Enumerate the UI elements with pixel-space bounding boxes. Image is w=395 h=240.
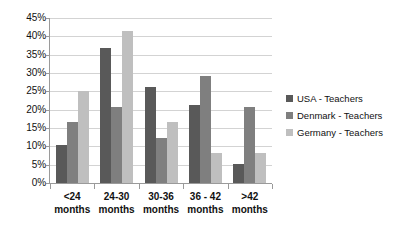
bar-usa: [100, 48, 111, 183]
x-axis-tick-mark: [183, 184, 184, 189]
y-axis-tick-label: 20%: [0, 105, 46, 115]
legend-item[interactable]: USA - Teachers: [286, 90, 383, 107]
legend-item-label: Germany - Teachers: [297, 127, 383, 138]
x-axis-tick-label-line1: 24-30: [104, 191, 130, 202]
x-axis-tick-mark: [94, 184, 95, 189]
y-axis-tick-label: 30%: [0, 68, 46, 78]
x-axis-tick-label: 30-36months: [139, 190, 183, 216]
x-axis-tick-label-line2: months: [94, 203, 138, 216]
x-axis-tick-mark: [228, 184, 229, 189]
y-axis-tick-mark: [46, 146, 50, 147]
bar-chart-figure: 0%5%10%15%20%25%30%35%40%45% <24months24…: [0, 0, 395, 240]
y-axis-tick-label: 15%: [0, 123, 46, 133]
bar-denmark: [244, 107, 255, 183]
x-axis-tick-mark: [50, 184, 51, 189]
y-axis-tick-mark: [46, 36, 50, 37]
plot-area: [50, 18, 272, 183]
x-axis: <24months24-30months30-36months36 - 42mo…: [50, 190, 272, 216]
y-axis-tick-mark: [46, 183, 50, 184]
x-axis-tick-label-line2: months: [50, 203, 94, 216]
bar-group: [228, 18, 272, 183]
y-axis-tick-label: 10%: [0, 141, 46, 151]
x-axis-tick-label-line1: >42: [241, 191, 258, 202]
bar-usa: [145, 87, 156, 183]
bar-denmark: [200, 76, 211, 183]
y-axis: 0%5%10%15%20%25%30%35%40%45%: [0, 0, 46, 240]
bar-groups: [50, 18, 272, 183]
y-axis-tick-label: 5%: [0, 160, 46, 170]
bar-group: [50, 18, 94, 183]
y-axis-tick-mark: [46, 91, 50, 92]
x-axis-tick-label-line1: 36 - 42: [190, 191, 221, 202]
x-axis-tick-label: <24months: [50, 190, 94, 216]
x-axis-tick-marks: [50, 184, 272, 189]
legend-swatch-usa: [286, 95, 293, 102]
x-axis-tick-mark: [139, 184, 140, 189]
y-axis-tick-mark: [46, 73, 50, 74]
x-axis-tick-label: 36 - 42months: [183, 190, 227, 216]
bar-group: [139, 18, 183, 183]
y-axis-tick-label: 0%: [0, 178, 46, 188]
x-axis-tick-label-line2: months: [139, 203, 183, 216]
bar-denmark: [111, 107, 122, 183]
x-axis-tick-label-line1: <24: [64, 191, 81, 202]
legend-item-label: Denmark - Teachers: [297, 110, 382, 121]
bar-denmark: [67, 122, 78, 183]
y-axis-line: [49, 18, 50, 184]
bar-germany: [211, 153, 222, 183]
legend-item[interactable]: Denmark - Teachers: [286, 107, 383, 124]
x-axis-tick-label: >42months: [228, 190, 272, 216]
bar-germany: [255, 153, 266, 183]
y-axis-tick-mark: [46, 55, 50, 56]
y-axis-tick-mark: [46, 110, 50, 111]
y-axis-tick-mark: [46, 18, 50, 19]
bar-usa: [189, 105, 200, 183]
bar-germany: [167, 122, 178, 183]
y-axis-tick-label: 45%: [0, 13, 46, 23]
x-axis-tick-label-line2: months: [183, 203, 227, 216]
bar-denmark: [156, 138, 167, 183]
x-axis-tick-mark: [272, 184, 273, 189]
chart-legend: USA - TeachersDenmark - TeachersGermany …: [286, 90, 383, 141]
y-axis-tick-label: 35%: [0, 50, 46, 60]
bar-germany: [122, 31, 133, 183]
legend-swatch-denmark: [286, 112, 293, 119]
x-axis-tick-label-line1: 30-36: [148, 191, 174, 202]
bar-group: [94, 18, 138, 183]
x-axis-tick-label-line2: months: [228, 203, 272, 216]
y-axis-tick-label: 40%: [0, 31, 46, 41]
legend-swatch-germany: [286, 129, 293, 136]
bar-usa: [233, 164, 244, 183]
bar-group: [183, 18, 227, 183]
y-axis-tick-mark: [46, 128, 50, 129]
y-axis-tick-mark: [46, 165, 50, 166]
bar-germany: [78, 91, 89, 183]
bar-usa: [56, 145, 67, 184]
legend-item-label: USA - Teachers: [297, 93, 363, 104]
legend-item[interactable]: Germany - Teachers: [286, 124, 383, 141]
x-axis-tick-label: 24-30months: [94, 190, 138, 216]
y-axis-tick-label: 25%: [0, 86, 46, 96]
